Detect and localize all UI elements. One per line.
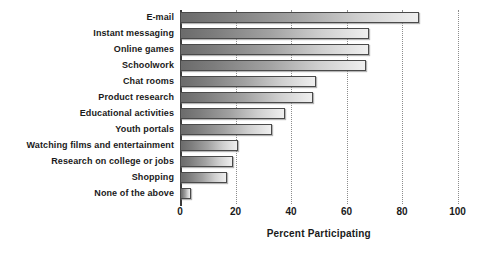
- bar-row: [180, 92, 313, 103]
- bar: [180, 188, 191, 199]
- x-tick-label: 80: [396, 206, 407, 218]
- bar: [180, 60, 366, 71]
- plot-area: [180, 10, 458, 204]
- bar: [180, 172, 227, 183]
- category-label: Chat rooms: [0, 76, 174, 87]
- category-label: Watching films and entertainment: [0, 140, 174, 151]
- bar-row: [180, 156, 233, 167]
- x-tick-label: 100: [449, 206, 466, 218]
- bar: [180, 12, 419, 23]
- category-label: None of the above: [0, 188, 174, 199]
- bar: [180, 124, 272, 135]
- category-label: Instant messaging: [0, 28, 174, 39]
- category-label: Research on college or jobs: [0, 156, 174, 167]
- x-tick-label: 60: [341, 206, 352, 218]
- category-label: Product research: [0, 92, 174, 103]
- bar-row: [180, 60, 366, 71]
- bar: [180, 92, 313, 103]
- category-label: Youth portals: [0, 124, 174, 135]
- bar-row: [180, 12, 419, 23]
- bar: [180, 44, 369, 55]
- bar-row: [180, 108, 285, 119]
- bar: [180, 28, 369, 39]
- category-label: E-mail: [0, 12, 174, 23]
- x-tick-label: 0: [177, 206, 183, 218]
- bar: [180, 156, 233, 167]
- bar: [180, 140, 238, 151]
- category-label: Shopping: [0, 172, 174, 183]
- category-label: Online games: [0, 44, 174, 55]
- bar-row: [180, 172, 227, 183]
- bar-row: [180, 188, 191, 199]
- bar-chart: E-mailInstant messagingOnline gamesSchoo…: [0, 0, 487, 256]
- bar: [180, 108, 285, 119]
- bar: [180, 76, 316, 87]
- gridline-100: [458, 10, 459, 204]
- bar-row: [180, 28, 369, 39]
- bar-series: [180, 10, 458, 204]
- x-tick-label: 40: [285, 206, 296, 218]
- bar-row: [180, 140, 238, 151]
- category-axis-labels: E-mailInstant messagingOnline gamesSchoo…: [0, 10, 174, 204]
- category-label: Educational activities: [0, 108, 174, 119]
- bar-row: [180, 44, 369, 55]
- x-axis-title: Percent Participating: [180, 228, 458, 239]
- bar-row: [180, 124, 272, 135]
- x-tick-label: 20: [230, 206, 241, 218]
- category-label: Schoolwork: [0, 60, 174, 71]
- bar-row: [180, 76, 316, 87]
